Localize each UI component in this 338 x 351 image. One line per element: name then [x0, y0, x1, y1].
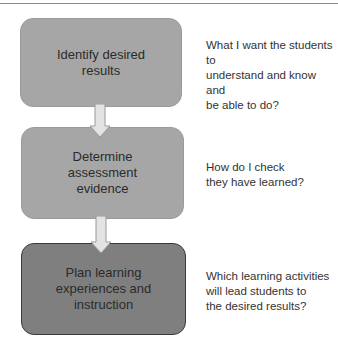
stage-box-assessment-evidence: Determine assessment evidence — [21, 127, 184, 219]
stage-label: Determine assessment evidence — [68, 149, 137, 197]
arrow-down-icon — [89, 104, 111, 138]
stage-label: Identify desired results — [57, 47, 145, 79]
stage-question-assessment: How do I check they have learned? — [206, 160, 304, 190]
arrow-down-icon — [90, 216, 112, 254]
stage-question-results: What I want the students to understand a… — [206, 38, 338, 113]
stage-label: Plan learning experiences and instructio… — [56, 265, 151, 313]
stage-box-plan-instruction: Plan learning experiences and instructio… — [21, 243, 186, 335]
stage-question-activities: Which learning activities will lead stud… — [206, 269, 329, 314]
top-divider — [0, 3, 338, 4]
stage-box-identify-results: Identify desired results — [20, 18, 182, 107]
